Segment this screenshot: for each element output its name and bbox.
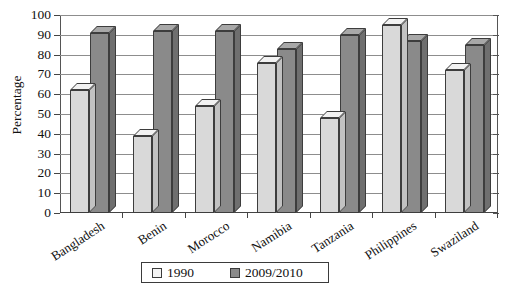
bar-side-face: [214, 99, 221, 213]
bar-side-face: [89, 83, 96, 213]
legend-swatch-2009-2010-icon: [230, 268, 240, 278]
x-axis-tick: [435, 213, 436, 218]
bar-side-face: [234, 24, 241, 213]
bar-front-face: [257, 63, 276, 213]
bar-1990-namibia: [257, 63, 276, 213]
bar-group: [372, 15, 434, 213]
bar-1990-benin: [133, 136, 152, 213]
x-axis-label-namibia: Namibia: [248, 218, 294, 256]
legend-item-1990: 1990: [152, 266, 194, 280]
x-axis-tick: [310, 213, 311, 218]
bar-side-face: [401, 18, 408, 213]
x-axis-label-tanzania: Tanzania: [309, 218, 357, 257]
bar-side-face: [484, 38, 491, 213]
x-axis-tick: [247, 213, 248, 218]
bar-1990-morocco: [195, 106, 214, 213]
x-axis-label-bangladesh: Bangladesh: [48, 218, 108, 264]
bar-front-face: [133, 136, 152, 213]
bar-1990-bangladesh: [70, 90, 89, 213]
bar-side-face: [359, 28, 366, 213]
bar-side-face: [464, 63, 471, 213]
bar-1990-swaziland: [445, 70, 464, 213]
legend-label-2009-2010: 2009/2010: [245, 266, 303, 280]
bar-side-face: [296, 42, 303, 213]
legend-item-2009-2010: 2009/2010: [230, 266, 303, 280]
bar-side-face: [276, 56, 283, 213]
x-axis-label-benin: Benin: [135, 218, 170, 248]
bar-side-face: [421, 34, 428, 213]
legend: 1990 2009/2010: [141, 262, 329, 283]
bar-front-face: [70, 90, 89, 213]
x-axis-tick: [122, 213, 123, 218]
bar-chart: Percentage 0102030405060708090100 Bangla…: [0, 0, 511, 292]
bar-1990-philippines: [382, 25, 401, 213]
legend-swatch-1990-icon: [152, 268, 162, 278]
bar-1990-tanzania: [320, 118, 339, 213]
bar-front-face: [320, 118, 339, 213]
x-axis-tick: [372, 213, 373, 218]
bar-side-face: [109, 26, 116, 213]
bar-front-face: [382, 25, 401, 213]
bar-front-face: [195, 106, 214, 213]
x-axis-label-swaziland: Swaziland: [428, 218, 482, 261]
bar-side-face: [172, 24, 179, 213]
x-axis-label-morocco: Morocco: [184, 218, 232, 257]
x-axis-label-philippines: Philippines: [362, 218, 420, 263]
x-axis-tick: [497, 213, 498, 218]
legend-label-1990: 1990: [167, 266, 194, 280]
bar-side-face: [339, 111, 346, 213]
x-axis-tick: [185, 213, 186, 218]
bar-front-face: [445, 70, 464, 213]
bar-side-face: [152, 129, 159, 213]
